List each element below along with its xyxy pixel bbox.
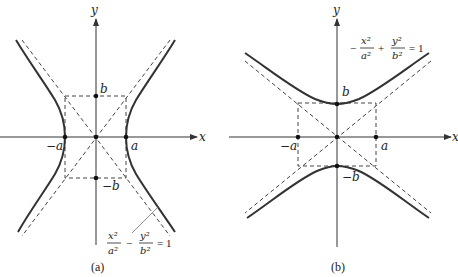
eq-b-term1-den: a² <box>361 50 371 61</box>
caption-a: (a) <box>91 260 104 274</box>
panel-b: x y −a a b −b − x² a² + y² b² = 1 <box>229 3 458 274</box>
x-axis-label-b: x <box>452 130 458 144</box>
hyperbola-left-branch-a <box>16 40 65 232</box>
eq-b-term2-den: b² <box>392 50 402 61</box>
vertex-b <box>335 102 340 107</box>
point-neg-b-a <box>94 176 99 181</box>
panel-a: x y −a a b −b x² a² − y² b² = <box>0 3 206 274</box>
eq-a-rhs: = 1 <box>157 237 171 249</box>
eq-a-term2-den: b² <box>140 245 150 256</box>
origin-b <box>335 135 340 140</box>
vertex-neg-a <box>63 135 68 140</box>
label-pos-a: a <box>131 139 138 153</box>
eq-a-term2-num: y² <box>139 230 150 241</box>
label-neg-b-b: −b <box>342 170 360 184</box>
y-axis-label-b: y <box>332 3 340 17</box>
point-pos-a-b <box>374 135 379 140</box>
point-b-a <box>94 94 99 99</box>
label-neg-a-b: −a <box>280 139 297 153</box>
eq-a-term1-num: x² <box>108 230 118 241</box>
eq-b-rhs: = 1 <box>409 42 423 54</box>
eq-b-term1-num: x² <box>361 35 371 46</box>
vertex-pos-a <box>124 135 129 140</box>
origin-a <box>94 135 99 140</box>
x-axis-label-a: x <box>199 130 206 144</box>
eq-a-term1-den: a² <box>108 245 118 256</box>
equation-b: − x² a² + y² b² = 1 <box>350 35 423 61</box>
label-neg-a: −a <box>46 139 63 153</box>
eq-b-operator: + <box>378 42 384 54</box>
label-b: b <box>100 82 108 96</box>
label-neg-b: −b <box>102 179 120 193</box>
vertex-neg-b <box>335 164 340 169</box>
y-axis-label-a: y <box>90 3 98 17</box>
label-b-b: b <box>342 85 350 99</box>
hyperbola-right-branch-a <box>126 40 175 232</box>
hyperbola-lower-branch-b <box>247 166 429 218</box>
hyperbola-figure: x y −a a b −b x² a² − y² b² = <box>0 0 458 277</box>
eq-b-sign: − <box>350 42 356 54</box>
eq-a-operator: − <box>126 237 132 249</box>
eq-b-term2-num: y² <box>391 35 402 46</box>
label-pos-a-b: a <box>381 139 388 153</box>
caption-b: (b) <box>331 260 345 274</box>
equation-a: x² a² − y² b² = 1 <box>107 230 171 256</box>
